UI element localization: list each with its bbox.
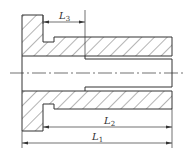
dimension-l2: L2 [43,115,172,129]
bushing-section-drawing: L3 L2 L1 [0,0,190,158]
svg-text:L2: L2 [103,115,115,128]
svg-text:L3: L3 [58,10,70,23]
dimension-l1: L1 [22,131,172,145]
svg-text:L1: L1 [91,131,103,144]
lower-bore-step [85,87,172,91]
upper-section-hatched [22,15,172,56]
lower-section-hatched [22,91,172,131]
dimension-l3: L3 [43,10,85,24]
